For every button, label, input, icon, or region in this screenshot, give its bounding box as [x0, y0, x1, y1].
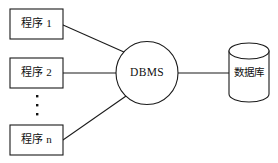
- ellipsis-dot-3: [36, 113, 38, 115]
- dbms-architecture-diagram: 程序 1 程序 2 程序 n DBMS 数据库: [0, 0, 278, 163]
- program-n-label: 程序 n: [10, 134, 63, 145]
- program-1-label: 程序 1: [10, 18, 63, 29]
- ellipsis-dot-2: [36, 104, 38, 106]
- ellipsis-dot-1: [36, 95, 38, 97]
- dbms-label: DBMS: [117, 67, 177, 79]
- connector-program-1-to-dbms: [63, 25, 124, 52]
- database-label: 数据库: [229, 68, 269, 79]
- connector-program-n-to-dbms: [63, 96, 126, 140]
- database-cylinder-top: [229, 43, 269, 59]
- program-2-label: 程序 2: [10, 67, 63, 78]
